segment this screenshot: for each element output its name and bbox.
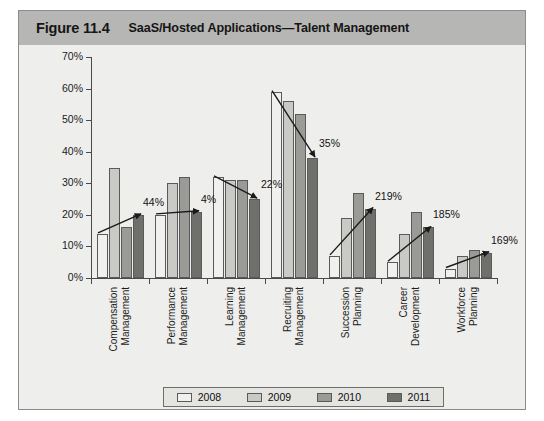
bar-2011-group-4 xyxy=(307,158,318,278)
trend-label-6: 185% xyxy=(433,208,460,220)
trend-label-3: 22% xyxy=(261,178,282,190)
figure-title: SaaS/Hosted Applications—Talent Manageme… xyxy=(129,21,410,35)
bar-2008-group-7 xyxy=(445,269,456,278)
x-category-line: Planning xyxy=(468,287,480,407)
legend-item[interactable]: 2008 xyxy=(177,391,221,403)
bar-2009-group-7 xyxy=(457,256,468,278)
legend-item[interactable]: 2009 xyxy=(247,391,291,403)
bar-2008-group-5 xyxy=(329,256,340,278)
bar-2009-group-6 xyxy=(399,234,410,278)
bar-2008-group-6 xyxy=(387,262,398,278)
bar-2011-group-3 xyxy=(249,199,260,278)
figure-number: Figure 11.4 xyxy=(36,20,110,36)
plot-area: 0%10%20%30%40%50%60%70% 44%4%22%35%219%1… xyxy=(29,51,516,401)
bar-2010-group-5 xyxy=(353,193,364,278)
legend-swatch-2010 xyxy=(317,393,332,402)
figure-title-bar: Figure 11.4 SaaS/Hosted Applications—Tal… xyxy=(19,11,525,45)
trend-label-4: 35% xyxy=(319,137,340,149)
bar-2008-group-2 xyxy=(155,215,166,278)
trend-label-7: 169% xyxy=(491,234,518,246)
bar-2010-group-4 xyxy=(295,114,306,278)
x-category-line: Management xyxy=(120,287,132,407)
x-category-line: Compensation xyxy=(108,287,120,407)
bars-layer xyxy=(29,51,516,401)
legend-label-2009: 2009 xyxy=(268,391,291,403)
bar-2010-group-6 xyxy=(411,212,422,278)
bar-2010-group-7 xyxy=(469,250,480,278)
x-category-label-1: CompensationManagement xyxy=(108,287,131,407)
bar-2011-group-2 xyxy=(191,212,202,278)
bar-2010-group-3 xyxy=(237,180,248,278)
bar-2009-group-2 xyxy=(167,183,178,278)
bar-2011-group-7 xyxy=(481,253,492,278)
legend-label-2008: 2008 xyxy=(198,391,221,403)
legend-item[interactable]: 2011 xyxy=(387,391,431,403)
legend-item[interactable]: 2010 xyxy=(317,391,361,403)
legend-swatch-2008 xyxy=(177,393,192,402)
x-category-line: Workforce xyxy=(456,287,468,407)
chart-legend: 2008 2009 2010 2011 xyxy=(163,387,444,407)
legend-label-2011: 2011 xyxy=(408,391,431,403)
legend-swatch-2011 xyxy=(387,393,402,402)
bar-2009-group-4 xyxy=(283,101,294,278)
bar-2011-group-6 xyxy=(423,227,434,278)
bar-2010-group-1 xyxy=(121,227,132,278)
x-category-label-7: WorkforcePlanning xyxy=(456,287,479,407)
trend-label-1: 44% xyxy=(143,196,164,208)
figure-container: Figure 11.4 SaaS/Hosted Applications—Tal… xyxy=(18,10,526,410)
bar-2008-group-1 xyxy=(97,234,108,278)
bar-2009-group-3 xyxy=(225,180,236,278)
legend-swatch-2009 xyxy=(247,393,262,402)
trend-label-5: 219% xyxy=(375,190,402,202)
bar-2011-group-5 xyxy=(365,209,376,278)
bar-2009-group-5 xyxy=(341,218,352,278)
bar-2010-group-2 xyxy=(179,177,190,278)
bar-2011-group-1 xyxy=(133,215,144,278)
bar-2009-group-1 xyxy=(109,168,120,279)
legend-label-2010: 2010 xyxy=(338,391,361,403)
trend-label-2: 4% xyxy=(201,193,216,205)
